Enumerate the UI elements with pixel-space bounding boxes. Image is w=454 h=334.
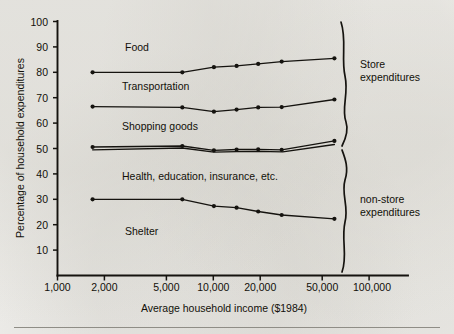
y-tick-label-50: 50 [36,143,48,155]
expenditure-share-chart: 100 90 80 70 60 50 40 30 20 10 1,000 2,0… [0,0,454,334]
brace-nonstore-expenditures [342,150,347,272]
band-label-shelter: Shelter [125,225,159,237]
series-shopping-goods-boundary-upper [91,139,337,153]
x-tick-label-1000: 1,000 [44,281,70,293]
band-label-transportation: Transportation [122,80,189,92]
y-tick-label-10: 10 [36,244,48,256]
y-tick-label-70: 70 [36,92,48,104]
y-tick-label-60: 60 [36,117,48,129]
series-food-boundary [91,56,337,74]
group-label-nonstore-line2: expenditures [360,206,420,218]
y-tick-label-80: 80 [36,66,48,78]
x-tick-label-50000: 50,000 [306,281,338,293]
y-tick-label-90: 90 [36,41,48,53]
x-tick-label-10000: 10,000 [197,281,229,293]
y-tick-label-100: 100 [30,16,48,28]
x-tick-label-5000: 5,000 [153,281,179,293]
band-label-food: Food [125,41,149,53]
group-label-store-line2: expenditures [360,71,420,83]
y-tick-label-20: 20 [36,219,48,231]
group-label-store-line1: Store [360,58,385,70]
x-axis-title: Average household income ($1984) [141,302,307,314]
series-shelter-boundary [91,197,337,221]
y-tick-label-40: 40 [36,168,48,180]
band-label-shopping-goods: Shopping goods [122,120,198,132]
y-tick-label-30: 30 [36,193,48,205]
x-tick-label-20000: 20,000 [244,281,276,293]
series-transportation-boundary [91,97,337,113]
band-label-health: Health, education, insurance, etc. [122,170,278,182]
x-tick-marks [58,276,370,281]
x-tick-label-100000: 100,000 [353,281,391,293]
y-axis-title: Percentage of household expenditures [14,58,26,238]
bottom-divider-rule [14,327,440,328]
figure-container: 100 90 80 70 60 50 40 30 20 10 1,000 2,0… [0,0,454,334]
group-label-nonstore-line1: non-store [360,193,405,205]
x-tick-label-2000: 2,000 [91,281,117,293]
brace-store-expenditures [341,22,347,146]
